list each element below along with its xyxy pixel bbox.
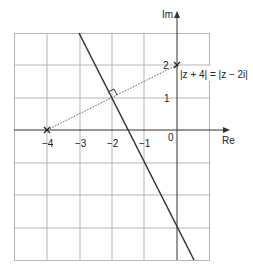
x-tick-label: −1 <box>139 138 151 149</box>
imag-axis-arrow-icon <box>174 11 180 18</box>
y-tick-label: 1 <box>164 93 170 104</box>
origin-label: 0 <box>168 132 174 143</box>
equation-label: |z + 4| = |z − 2i| <box>180 69 248 80</box>
x-tick-label: −2 <box>107 138 119 149</box>
imag-axis-label: Im <box>162 9 173 20</box>
x-tick-label: −4 <box>42 138 54 149</box>
argand-diagram: Im Re 0 −4 −3 −2 −1 1 2 |z + 4| = |z − 2… <box>0 0 253 268</box>
real-axis-arrow-icon <box>223 127 230 133</box>
x-tick-label: −3 <box>75 138 87 149</box>
real-axis-label: Re <box>222 135 235 146</box>
